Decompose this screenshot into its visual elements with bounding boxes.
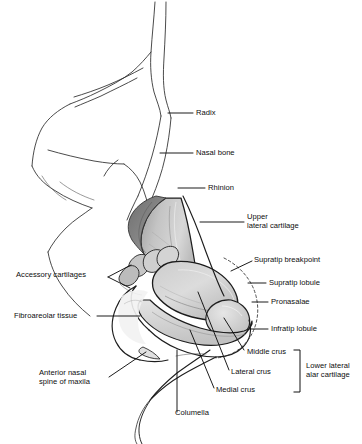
label-columella: Columella <box>175 408 209 417</box>
label-upper-lateral-cartilage-line1: Upper <box>247 212 268 221</box>
label-accessory-cartilages: Accessory cartilages <box>16 270 86 279</box>
label-medial-crus: Medial crus <box>216 385 255 394</box>
figure-canvas: Radix Nasal bone Rhinion Upper lateral c… <box>0 0 362 444</box>
label-upper-lateral-cartilage-line2: lateral cartilage <box>247 221 299 230</box>
label-middle-crus: Middle crus <box>247 347 286 356</box>
label-infratip-lobule: Infratip lobule <box>271 324 317 333</box>
label-nasal-bone: Nasal bone <box>196 148 235 157</box>
label-rhinion: Rhinion <box>208 183 234 192</box>
label-lower-lateral-alar-cartilage-line2: alar cartilage <box>306 370 350 379</box>
label-radix: Radix <box>196 108 216 117</box>
label-fibroareolar-tissue: Fibroareolar tissue <box>14 311 77 320</box>
label-supratip-breakpoint: Supratip breakpoint <box>254 255 320 264</box>
label-supratip-lobule: Supratip lobule <box>269 278 320 287</box>
label-anterior-nasal-spine-line2: spine of maxila <box>39 377 90 386</box>
label-pronasalae: Pronasalae <box>271 297 310 306</box>
label-lower-lateral-alar-cartilage-line1: Lower lateral <box>306 361 350 370</box>
label-anterior-nasal-spine-line1: Anterior nasal <box>39 368 86 377</box>
label-lateral-crus: Lateral crus <box>231 367 271 376</box>
